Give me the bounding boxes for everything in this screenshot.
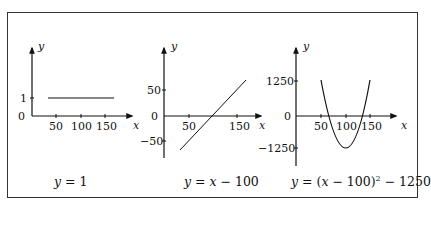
y-axis-label: y [302, 40, 310, 53]
y-tick-label: 1250 [266, 75, 294, 88]
y-tick-label: 0 [151, 110, 158, 123]
y-axis-label: y [170, 40, 178, 53]
panel-linear: y x 50 0 −50 50 150 [140, 40, 266, 158]
panel-constant: y x 1 0 50 100 150 [18, 40, 140, 133]
x-tick-label: 150 [361, 120, 382, 133]
x-tick-label: 100 [336, 120, 357, 133]
y-tick-label: 1 [20, 92, 27, 105]
x-tick-label: 100 [71, 120, 92, 133]
x-tick-label: 50 [49, 120, 63, 133]
x-axis-label: x [259, 119, 266, 132]
y-axis-label: y [37, 40, 45, 53]
x-tick-label: 50 [314, 120, 328, 133]
x-tick-label: 50 [182, 120, 196, 133]
caption-quadratic: y = (x − 100)2 − 1250 [291, 174, 431, 189]
x-tick-label: 150 [96, 120, 117, 133]
y-tick-label: 50 [147, 84, 161, 97]
x-tick-label: 150 [229, 120, 250, 133]
y-tick-label: −50 [140, 135, 163, 148]
y-tick-label: 0 [284, 110, 291, 123]
caption-linear: y = x − 100 [184, 174, 259, 189]
y-tick-label: 0 [18, 110, 25, 123]
plot-line [180, 80, 246, 150]
x-axis-label: x [133, 119, 140, 132]
caption-constant: y = 1 [54, 174, 87, 189]
x-axis-label: x [401, 119, 408, 132]
y-tick-label: −1250 [258, 142, 295, 155]
panel-quadratic: y x 1250 0 −1250 50 100 150 [258, 40, 408, 166]
